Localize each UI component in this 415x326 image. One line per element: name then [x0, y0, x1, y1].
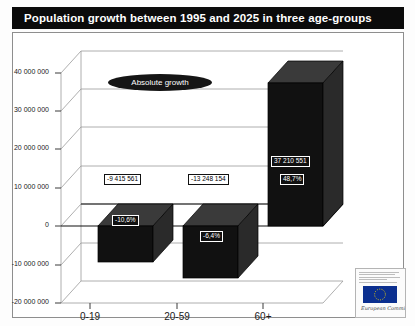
value-label-0-19: -9 415 561: [104, 174, 141, 185]
legend-label: Absolute growth: [131, 78, 188, 87]
chart-page: Population growth between 1995 and 2025 …: [0, 0, 415, 326]
percent-label-60plus: 48,7%: [280, 174, 304, 185]
logo-text-lines: [359, 272, 401, 284]
x-tick-label-60plus: 60+: [233, 311, 293, 322]
bar-60plus: [268, 61, 343, 226]
y-axis-ticks: [55, 73, 61, 303]
y-tick-label: -10 000 000: [0, 260, 49, 267]
eu-flag-icon: [363, 286, 397, 303]
y-tick-label: -20 000 000: [0, 298, 49, 305]
chart-frame: 40 000 000 30 000 000 20 000 000 10 000 …: [12, 32, 404, 318]
logo-caption: European Commission: [361, 305, 406, 311]
y-tick-label: 0: [0, 221, 49, 228]
y-tick-label: 10 000 000: [0, 183, 49, 190]
value-label-20-59: -13 248 154: [188, 174, 229, 185]
y-tick-label: 40 000 000: [0, 68, 49, 75]
page-title: Population growth between 1995 and 2025 …: [24, 12, 372, 24]
legend-absolute-growth: Absolute growth: [108, 74, 212, 91]
percent-label-0-19: -10,6%: [112, 215, 139, 226]
x-axis-ticks: [90, 303, 263, 309]
y-tick-label: 20 000 000: [0, 144, 49, 151]
value-label-60plus: 37 210 551: [271, 156, 310, 167]
y-tick-label: 30 000 000: [0, 106, 49, 113]
percent-label-20-59: -6,4%: [200, 231, 223, 242]
page-title-bar: Population growth between 1995 and 2025 …: [12, 7, 404, 29]
x-tick-label-20-59: 20-59: [147, 311, 207, 322]
eu-logo: European Commission: [355, 268, 406, 318]
plot-area: 40 000 000 30 000 000 20 000 000 10 000 …: [13, 33, 405, 319]
x-tick-label-0-19: 0-19: [60, 311, 120, 322]
